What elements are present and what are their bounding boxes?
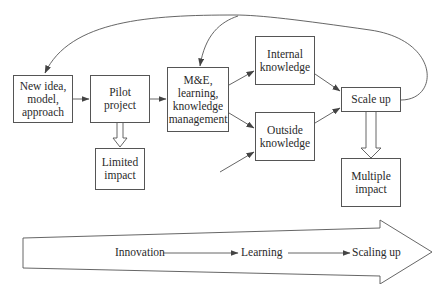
node-multiple-impact-label: Multiple impact: [349, 170, 393, 196]
block-arrow-limited: [113, 123, 127, 147]
block-arrow-multiple: [361, 112, 381, 158]
node-scale-up-label: Scale up: [351, 93, 390, 106]
node-scale-up: Scale up: [341, 87, 401, 112]
node-pilot-project: Pilot project: [90, 75, 150, 123]
node-me-learning: M&E, learning, knowledge management: [167, 67, 229, 132]
node-me-learning-label: M&E, learning, knowledge management: [169, 74, 228, 126]
node-new-idea-label: New idea, model, approach: [15, 80, 71, 119]
diagram-connectors: [0, 0, 440, 284]
flow-stage-scaling-up: Scaling up: [352, 246, 401, 259]
node-multiple-impact: Multiple impact: [341, 158, 401, 207]
node-pilot-project-label: Pilot project: [100, 86, 140, 112]
node-internal-knowledge: Internal knowledge: [255, 36, 315, 85]
flow-stage-innovation: Innovation: [115, 246, 165, 259]
flow-stage-learning: Learning: [241, 246, 283, 259]
feedback-curve-to-me: [200, 16, 238, 66]
node-new-idea: New idea, model, approach: [13, 75, 73, 123]
node-limited-impact: Limited impact: [95, 148, 145, 190]
node-outside-knowledge-label: Outside knowledge: [257, 124, 313, 150]
node-outside-knowledge: Outside knowledge: [255, 112, 315, 161]
node-limited-impact-label: Limited impact: [100, 156, 140, 182]
node-internal-knowledge-label: Internal knowledge: [257, 48, 313, 74]
